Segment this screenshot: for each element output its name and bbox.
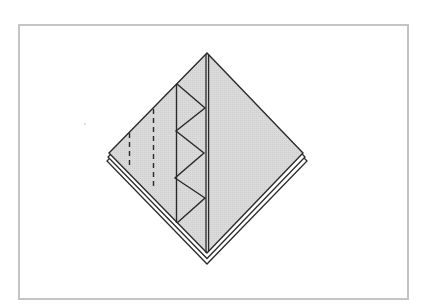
stray-mark <box>84 123 86 125</box>
origami-diagram <box>0 0 428 306</box>
